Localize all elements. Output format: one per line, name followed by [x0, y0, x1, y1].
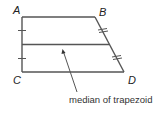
vertex-label-b: B: [99, 6, 106, 18]
trapezoid-diagram: A B C D median of trapezoid: [0, 0, 159, 113]
vertex-label-d: D: [128, 74, 136, 86]
vertex-label-c: C: [13, 74, 21, 86]
arrow-icon: [62, 49, 78, 92]
median-caption: median of trapezoid: [69, 94, 152, 105]
double-tick-right-upper: [98, 29, 108, 33]
vertex-label-a: A: [12, 4, 20, 16]
